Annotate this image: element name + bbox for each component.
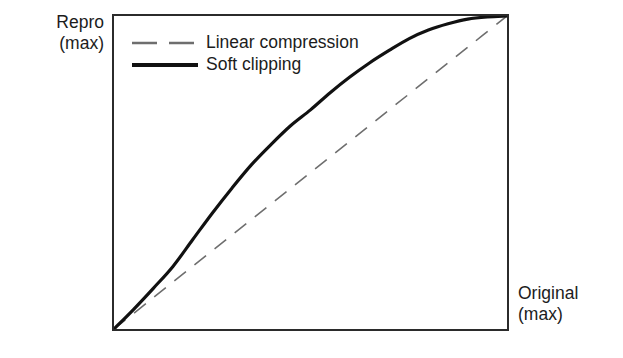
x-axis-label-line1: Original — [518, 283, 578, 303]
legend-label-soft-clipping: Soft clipping — [206, 54, 301, 75]
legend-swatch-dashed-line-icon — [132, 37, 198, 49]
legend-label-linear-compression: Linear compression — [206, 32, 359, 53]
plot-area: Linear compression Soft clipping — [112, 14, 509, 331]
figure-canvas: Repro (max) Original (max) Linear compre… — [0, 0, 623, 358]
y-axis-label-line2: (max) — [8, 33, 104, 54]
legend-swatch-solid-line-icon — [132, 59, 198, 71]
legend: Linear compression Soft clipping — [132, 32, 359, 75]
x-axis-label-line2: (max) — [518, 304, 578, 325]
legend-entry-soft-clipping: Soft clipping — [132, 54, 359, 75]
legend-entry-linear-compression: Linear compression — [132, 32, 359, 53]
y-axis-label-line1: Repro — [56, 12, 104, 32]
x-axis-label: Original (max) — [518, 283, 578, 325]
y-axis-label: Repro (max) — [8, 12, 104, 54]
